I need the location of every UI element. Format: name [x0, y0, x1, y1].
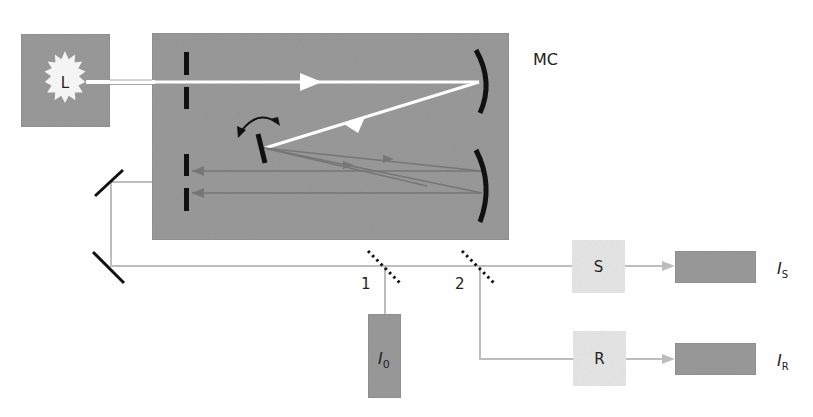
svg-text:IS: IS [777, 259, 788, 280]
reference-label: R [594, 350, 604, 368]
detector-i0: I0 [368, 314, 401, 398]
detector-s-subscript: S [782, 269, 788, 280]
sample-label: S [594, 258, 604, 276]
detector-sample: IS [675, 251, 788, 283]
detector-reference: IR [675, 343, 789, 375]
folding-mirror-lower [93, 252, 124, 283]
detector-r-subscript: R [782, 361, 789, 372]
optical-diagram: L MC [0, 0, 813, 417]
svg-text:IR: IR [777, 351, 789, 372]
splitter-2-label: 2 [455, 275, 465, 293]
detector-i0-subscript: 0 [383, 358, 390, 371]
sample-cell: S [572, 240, 625, 293]
monochromator-label: MC [533, 50, 558, 69]
reference-cell: R [573, 331, 626, 386]
splitter-1-label: 1 [361, 275, 371, 293]
monochromator-box [152, 33, 509, 240]
beam-arrow-icon [662, 261, 675, 271]
beam-arrow-icon [662, 354, 675, 364]
lamp-label: L [61, 74, 70, 92]
